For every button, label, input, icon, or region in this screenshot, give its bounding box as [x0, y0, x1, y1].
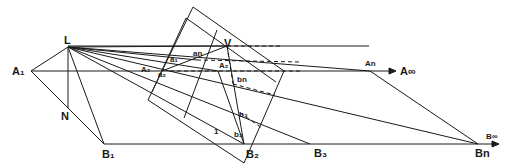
b-infinity-arrowhead	[492, 141, 499, 147]
label-a-1: a₁	[170, 55, 178, 64]
picture-plane-inner-left	[152, 18, 186, 92]
label-N: N	[61, 110, 69, 122]
edge-L-B1	[68, 47, 104, 144]
perspective-diagram: L A₁ N B₁ V A₂ B₂ B₃ Bn An A∞ B∞ an a₁ A…	[0, 0, 516, 168]
label-V: V	[224, 37, 232, 49]
label-A2: A₂	[219, 61, 229, 70]
label-A1: A₁	[12, 65, 25, 77]
label-B-infinity: B∞	[486, 132, 498, 141]
label-Bn: Bn	[475, 147, 490, 159]
label-one: 1	[214, 127, 219, 136]
label-b-3: b₃	[239, 110, 248, 119]
dash-bn-right	[233, 84, 275, 95]
label-B1: B₁	[102, 148, 115, 160]
a-infinity-arrowhead	[389, 68, 396, 74]
label-L: L	[64, 34, 71, 46]
picture-plane-outer	[148, 7, 284, 163]
edge-L-A1	[31, 47, 68, 71]
label-An: An	[365, 59, 376, 68]
label-A-small: A₂	[141, 65, 151, 74]
label-b-2: b₂	[234, 130, 243, 139]
label-B2: B₂	[246, 148, 259, 160]
label-B3: B₃	[314, 147, 327, 159]
label-b-n: bn	[237, 75, 247, 84]
line-An-Bn	[370, 71, 478, 144]
label-A-infinity: A∞	[400, 65, 416, 77]
label-a-2: a₂	[158, 70, 166, 79]
label-a-n: an	[193, 49, 202, 58]
